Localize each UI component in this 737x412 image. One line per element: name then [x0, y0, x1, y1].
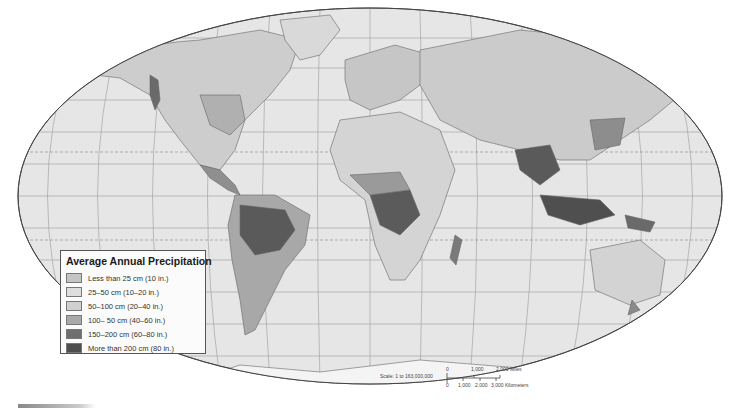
legend-swatch [66, 273, 82, 283]
legend-label: 25–50 cm (10–20 in.) [88, 288, 159, 297]
legend-label: 150–200 cm (60–80 in.) [88, 330, 167, 339]
legend-item: 25–50 cm (10–20 in.) [66, 285, 200, 299]
legend-title: Average Annual Precipitation [66, 255, 200, 267]
legend-item: 100– 50 cm (40–60 in.) [66, 313, 200, 327]
legend-item: 50–100 cm (20–40 in.) [66, 299, 200, 313]
legend-item: Less than 25 cm (10 in.) [66, 271, 200, 285]
scale-miles-2000: 2,000 Miles [496, 366, 522, 372]
legend-label: 100– 50 cm (40–60 in.) [88, 316, 165, 325]
scale-ratio: Scale: 1 to 163,000,000 [380, 373, 433, 379]
legend-item: More than 200 cm (80 in.) [66, 341, 200, 355]
decorative-bar [18, 404, 96, 408]
scale-miles-1000: 1,000 [471, 366, 484, 372]
scale-km-0: 0 [446, 382, 449, 388]
legend-swatch [66, 315, 82, 325]
legend-swatch [66, 301, 82, 311]
scale-km-2000: 2,000 [475, 382, 488, 388]
legend-label: Less than 25 cm (10 in.) [88, 274, 168, 283]
legend-swatch [66, 329, 82, 339]
legend-label: More than 200 cm (80 in.) [88, 344, 174, 353]
scale-miles-0: 0 [446, 366, 449, 372]
scale-km-3000: 3,000 Kilometers [491, 382, 529, 388]
legend-swatch [66, 287, 82, 297]
precipitation-legend: Average Annual Precipitation Less than 2… [60, 250, 206, 354]
scale-km-1000: 1,000 [458, 382, 471, 388]
legend-item: 150–200 cm (60–80 in.) [66, 327, 200, 341]
legend-label: 50–100 cm (20–40 in.) [88, 302, 163, 311]
legend-swatch [66, 343, 82, 353]
